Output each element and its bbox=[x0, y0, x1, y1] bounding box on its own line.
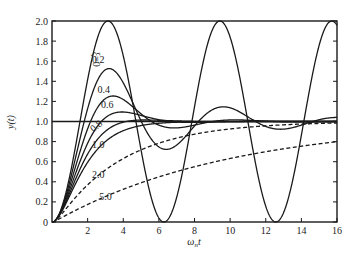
curve-label: 5.0 bbox=[99, 191, 112, 202]
y-tick-label: 0 bbox=[43, 217, 48, 228]
x-tick-label: 16 bbox=[332, 225, 342, 236]
x-tick-label: 6 bbox=[156, 225, 161, 236]
y-tick-label: 2.0 bbox=[36, 16, 49, 27]
curve-zeta-0-4 bbox=[52, 96, 337, 222]
x-axis-ticks: 246810121416 bbox=[85, 218, 342, 236]
curve-label: 1.0 bbox=[92, 139, 105, 150]
curve-label: 2.0 bbox=[92, 169, 105, 180]
x-tick-label: 14 bbox=[296, 225, 306, 236]
y-tick-label: 1.6 bbox=[36, 56, 49, 67]
x-tick-label: 8 bbox=[192, 225, 197, 236]
y-axis-title: y(t) bbox=[5, 114, 17, 130]
x-tick-label: 2 bbox=[85, 225, 90, 236]
y-tick-label: 0.6 bbox=[36, 156, 49, 167]
x-tick-label: 4 bbox=[121, 225, 126, 236]
y-tick-label: 0.8 bbox=[36, 136, 49, 147]
curve-label: 0.6 bbox=[101, 99, 114, 110]
x-tick-label: 10 bbox=[225, 225, 235, 236]
y-tick-label: 0.2 bbox=[36, 196, 49, 207]
y-tick-label: 1.2 bbox=[36, 96, 49, 107]
curve-zeta-5-0 bbox=[52, 142, 337, 222]
x-tick-label: 12 bbox=[261, 225, 271, 236]
step-response-chart: 00.20.40.60.81.01.21.41.61.82.0 24681012… bbox=[0, 0, 354, 254]
y-tick-label: 1.8 bbox=[36, 36, 49, 47]
x-axis-title: ωnt bbox=[187, 236, 201, 249]
curve-label: 0.4 bbox=[97, 84, 110, 95]
y-tick-label: 0.4 bbox=[36, 176, 49, 187]
curve-label: 0.2 bbox=[92, 54, 105, 65]
y-tick-label: 1.0 bbox=[36, 116, 49, 127]
y-tick-label: 1.4 bbox=[36, 76, 49, 87]
